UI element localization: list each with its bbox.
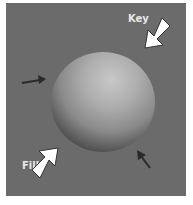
rim-arrow-right-icon [137,150,150,168]
fill-arrow-icon [32,148,58,178]
rim-arrow-left-icon [22,75,46,84]
key-arrow-icon [145,18,170,48]
arrows-overlay [0,0,193,205]
